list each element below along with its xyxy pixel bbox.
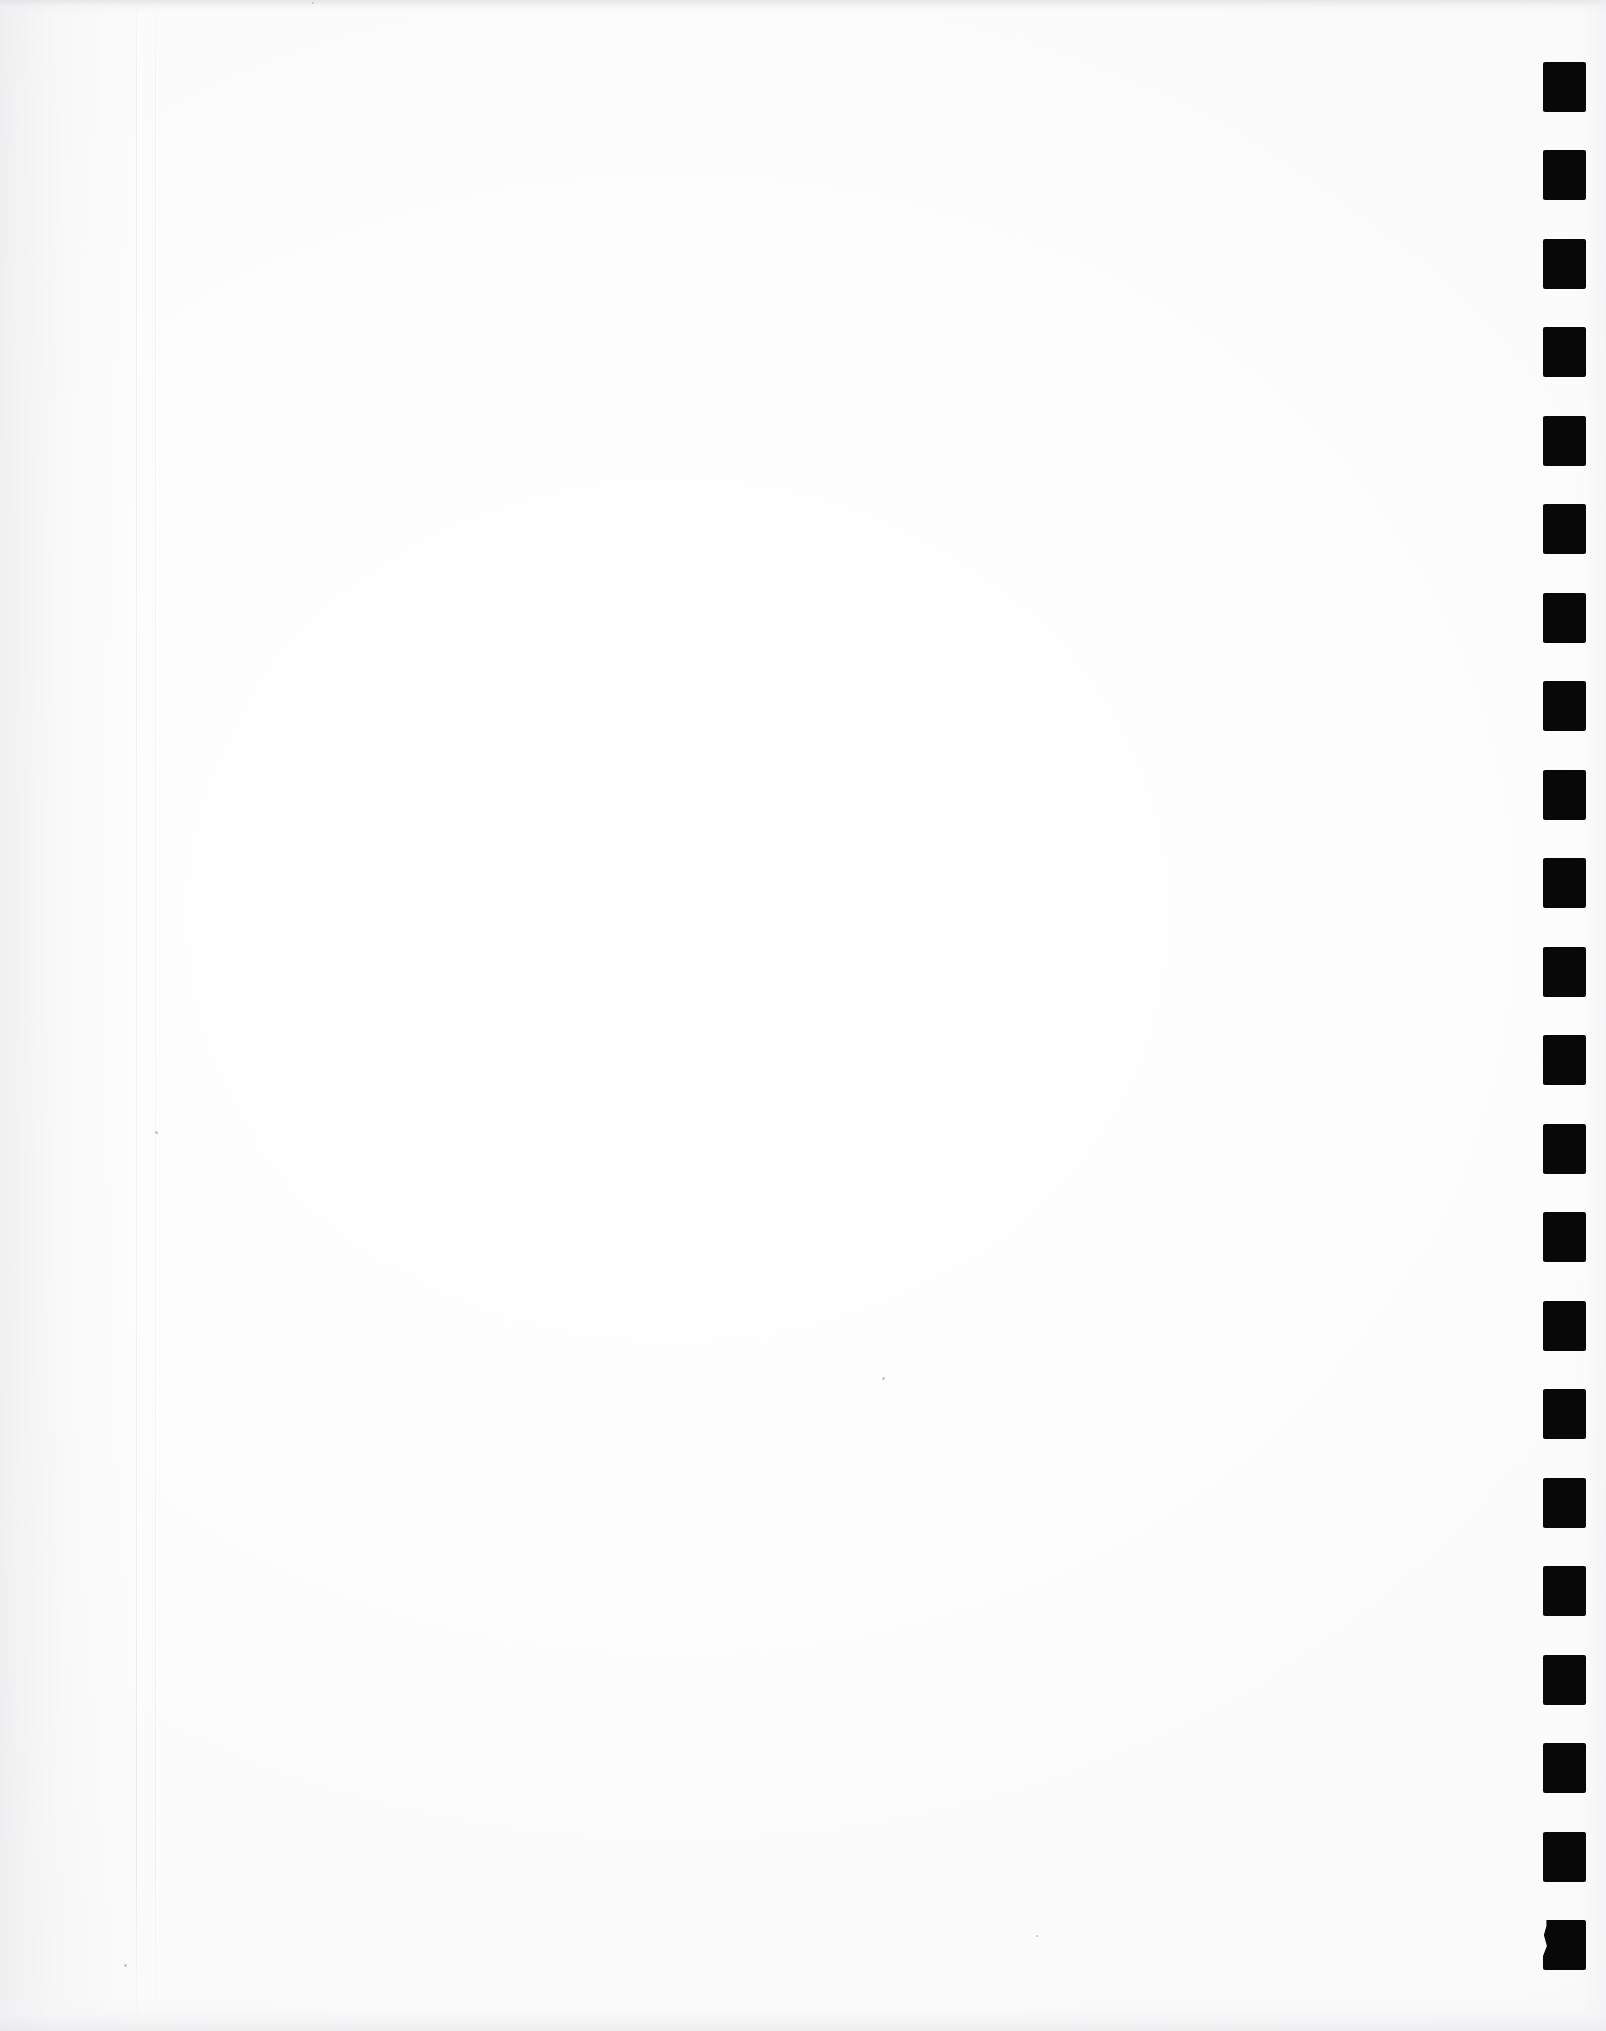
register-marker xyxy=(1543,1478,1586,1528)
register-marker xyxy=(1543,327,1586,377)
register-marker xyxy=(1543,1920,1586,1970)
register-marker xyxy=(1543,593,1586,643)
register-marker xyxy=(1543,239,1586,289)
register-marker xyxy=(1543,416,1586,466)
scanned-page xyxy=(0,0,1606,2031)
register-marker xyxy=(1543,1655,1586,1705)
register-marker xyxy=(1543,681,1586,731)
register-marker xyxy=(1543,1035,1586,1085)
register-marker xyxy=(1543,858,1586,908)
page-body-text xyxy=(170,70,1500,1930)
register-marker xyxy=(1543,1124,1586,1174)
register-marker xyxy=(1543,150,1586,200)
register-marker xyxy=(1543,1832,1586,1882)
register-marker xyxy=(1543,1389,1586,1439)
register-marker xyxy=(1543,62,1586,112)
register-marker xyxy=(1543,1743,1586,1793)
register-marker xyxy=(1543,947,1586,997)
register-marker xyxy=(1543,1566,1586,1616)
register-marker xyxy=(1543,1212,1586,1262)
register-marker xyxy=(1543,504,1586,554)
register-marker xyxy=(1543,770,1586,820)
register-marker xyxy=(1543,1301,1586,1351)
